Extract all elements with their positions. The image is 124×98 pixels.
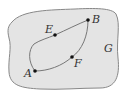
label-g: G [104, 43, 113, 54]
label-e: E [45, 24, 53, 35]
label-f: F [74, 58, 82, 69]
point-a [33, 69, 37, 73]
diagram: A E B F G [0, 0, 124, 98]
point-b [86, 18, 90, 22]
label-b: B [92, 14, 100, 25]
point-e [53, 33, 57, 37]
label-a: A [24, 68, 32, 79]
